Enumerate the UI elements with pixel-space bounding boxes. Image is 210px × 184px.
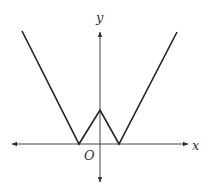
function-graph: y x O [0,0,210,184]
x-axis-label: x [192,138,200,153]
y-axis-label: y [95,10,104,25]
origin-label: O [84,148,95,163]
